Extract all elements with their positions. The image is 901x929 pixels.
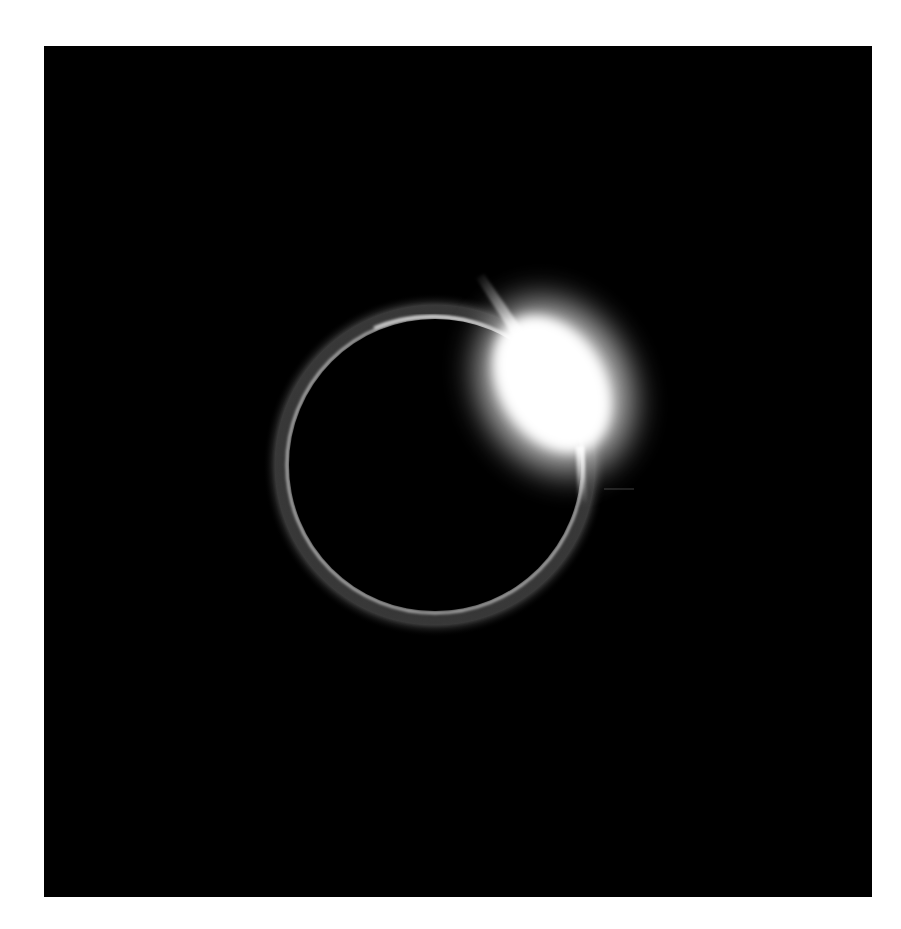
eclipse-photo: [44, 46, 872, 897]
eclipse-illustration: [44, 46, 872, 897]
